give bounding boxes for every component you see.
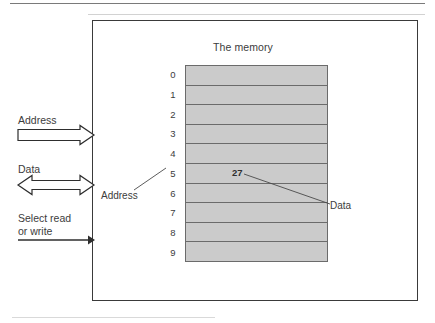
- page-rule-top: [10, 3, 425, 4]
- signal-label-select-line2: or write: [18, 225, 71, 238]
- memory-cell-1: [186, 86, 327, 106]
- memory-table: 27: [185, 65, 328, 262]
- signal-label-data: Data: [18, 163, 40, 176]
- address-index-6: 6: [165, 183, 181, 203]
- address-index-7: 7: [165, 203, 181, 223]
- address-index-8: 8: [165, 223, 181, 243]
- memory-cell-6: [186, 184, 327, 204]
- memory-cell-2: [186, 105, 327, 125]
- address-index-4: 4: [165, 144, 181, 164]
- memory-cell-0: [186, 66, 327, 86]
- signal-label-select-read-or-write: Select read or write: [18, 212, 71, 238]
- address-index-9: 9: [165, 242, 181, 262]
- address-index-2: 2: [165, 104, 181, 124]
- address-index-3: 3: [165, 124, 181, 144]
- address-index-5: 5: [165, 164, 181, 184]
- memory-cell-value-5: 27: [232, 168, 243, 179]
- memory-cell-7: [186, 203, 327, 223]
- memory-cell-4: [186, 144, 327, 164]
- diagram-title: The memory: [213, 41, 273, 53]
- callout-label-address: Address: [101, 190, 138, 201]
- memory-cell-3: [186, 125, 327, 145]
- address-bus-arrow-icon: [18, 126, 94, 145]
- page-rule-bottom: [12, 317, 215, 318]
- diagram-page: The memory 0 1 2 3 4 5 6 7 8 9 27: [0, 0, 435, 323]
- address-index-0: 0: [165, 65, 181, 85]
- address-index-column: 0 1 2 3 4 5 6 7 8 9: [165, 65, 181, 262]
- data-bus-arrow-icon: [18, 176, 94, 195]
- callout-label-data: Data: [330, 200, 351, 211]
- memory-cell-8: [186, 223, 327, 243]
- memory-cell-9: [186, 242, 327, 261]
- signal-label-address: Address: [18, 114, 57, 127]
- memory-cell-5: 27: [186, 164, 327, 184]
- page-rule-top-secondary: [88, 14, 425, 15]
- address-index-1: 1: [165, 85, 181, 105]
- signal-label-select-line1: Select read: [18, 212, 71, 225]
